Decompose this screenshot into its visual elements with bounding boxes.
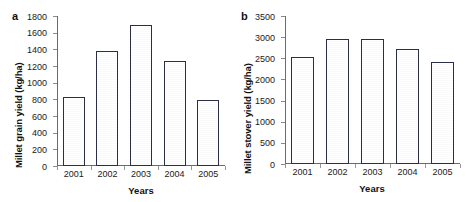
bar-texture (292, 58, 313, 163)
x-tick-origin (57, 166, 58, 170)
x-tick-label-2004: 2004 (397, 168, 417, 177)
x-tick-2002 (355, 164, 356, 168)
y-tick-label-2500: 2500 (255, 54, 275, 63)
bar-2001 (291, 57, 314, 164)
x-tick-label-2005: 2005 (432, 168, 452, 177)
bar-2005 (431, 62, 454, 164)
y-tick-label-0: 0 (42, 162, 47, 171)
bar-2002 (96, 51, 118, 166)
x-tick-2002 (124, 166, 125, 170)
x-tick-2001 (91, 166, 92, 170)
x-tick-label-2001: 2001 (292, 168, 312, 177)
x-tick-2004 (191, 166, 192, 170)
x-axis-title-a: Years (128, 186, 153, 196)
bar-texture (362, 40, 383, 163)
x-tick-2003 (158, 166, 159, 170)
x-tick-2005 (460, 164, 461, 168)
bar-texture (64, 98, 84, 165)
y-tick-label-400: 400 (32, 129, 47, 138)
y-tick-label-2000: 2000 (255, 75, 275, 84)
y-axis-title-b: Millet stover yield (kg/ha) (242, 63, 253, 174)
bar-2003 (361, 39, 384, 164)
x-tick-label-2002: 2002 (97, 170, 117, 179)
y-tick-label-600: 600 (32, 112, 47, 121)
plot-area-a: 020040060080010001200140016001800 (57, 16, 225, 166)
bar-group-a (57, 16, 225, 166)
x-tick-2005 (225, 166, 226, 170)
x-tick-label-2001: 2001 (64, 170, 84, 179)
bar-2003 (130, 25, 152, 166)
plot-area-b: 0500100015002000250030003500 (285, 16, 460, 164)
y-tick-label-1000: 1000 (255, 118, 275, 127)
panel-label-a: a (12, 11, 18, 22)
x-tick-label-2003: 2003 (131, 170, 151, 179)
x-tick-2004 (425, 164, 426, 168)
bar-texture (327, 40, 348, 163)
y-tick-label-1500: 1500 (255, 97, 275, 106)
panel-a: a Millet grain yield (kg/ha) 02004006008… (0, 0, 235, 202)
bar-texture (97, 52, 117, 165)
bar-texture (432, 63, 453, 163)
x-tick-label-2004: 2004 (165, 170, 185, 179)
bar-texture (165, 62, 185, 165)
bar-2004 (396, 49, 419, 164)
y-tick-label-500: 500 (260, 139, 275, 148)
figure-two-panel-bar-charts: a Millet grain yield (kg/ha) 02004006008… (0, 0, 470, 202)
x-tick-origin (285, 164, 286, 168)
y-tick-label-800: 800 (32, 95, 47, 104)
y-tick-label-3500: 3500 (255, 12, 275, 21)
x-tick-label-2005: 2005 (198, 170, 218, 179)
bar-2005 (197, 100, 219, 166)
y-tick-label-3000: 3000 (255, 33, 275, 42)
bar-texture (397, 50, 418, 163)
x-tick-label-2003: 2003 (362, 168, 382, 177)
x-axis-title-b: Years (359, 184, 384, 194)
y-tick-label-1800: 1800 (27, 12, 47, 21)
bar-group-b (285, 16, 460, 164)
y-tick-label-0: 0 (270, 160, 275, 169)
panel-label-b: b (241, 11, 248, 22)
y-tick-label-1600: 1600 (27, 29, 47, 38)
y-tick-label-1000: 1000 (27, 79, 47, 88)
bar-2004 (164, 61, 186, 166)
x-tick-2003 (390, 164, 391, 168)
panel-b: b Millet stover yield (kg/ha) 0500100015… (235, 0, 470, 202)
bar-texture (131, 26, 151, 165)
y-tick-label-200: 200 (32, 145, 47, 154)
y-tick-label-1200: 1200 (27, 62, 47, 71)
y-axis-title-a: Millet grain yield (kg/ha) (13, 62, 24, 168)
bar-2001 (63, 97, 85, 166)
x-tick-label-2002: 2002 (327, 168, 347, 177)
x-tick-2001 (320, 164, 321, 168)
bar-2002 (326, 39, 349, 164)
bar-texture (198, 101, 218, 165)
y-tick-label-1400: 1400 (27, 45, 47, 54)
